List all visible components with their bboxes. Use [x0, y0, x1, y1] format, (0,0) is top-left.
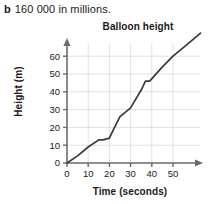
x-tick-label: 30	[125, 168, 136, 179]
y-tick-label: 30	[49, 104, 60, 115]
x-axis-title: Time (seconds)	[60, 186, 200, 197]
x-tick-label: 50	[168, 168, 179, 179]
worksheet-page: b160 000 in millions. Balloon height 010…	[0, 0, 210, 204]
data-series-line	[67, 33, 201, 163]
y-tick-label: 50	[49, 68, 60, 79]
x-tick-label: 40	[147, 168, 158, 179]
x-tick-label: 0	[64, 168, 69, 179]
question-label: b	[4, 3, 11, 15]
x-tick-label: 20	[104, 168, 115, 179]
x-tick-label: 10	[83, 168, 94, 179]
y-tick-label: 0	[55, 157, 60, 168]
y-tick-label: 20	[49, 122, 60, 133]
y-tick-label: 60	[49, 51, 60, 62]
y-tick-label: 10	[49, 140, 60, 151]
balloon-height-chart: 0102030405060 01020304050	[0, 16, 210, 188]
y-tick-label: 40	[49, 86, 60, 97]
x-axis-arrow-icon	[195, 159, 203, 166]
x-axis-ticks: 01020304050	[64, 163, 178, 179]
question-text: 160 000 in millions.	[15, 3, 111, 15]
y-axis-arrow-icon	[63, 38, 70, 46]
question-line: b160 000 in millions.	[4, 3, 111, 16]
y-axis-ticks: 0102030405060	[49, 51, 67, 169]
y-axis-title: Height (m)	[13, 56, 24, 128]
